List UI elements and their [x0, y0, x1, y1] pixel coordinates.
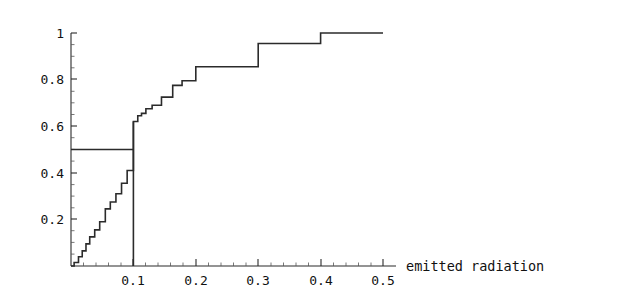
x-tick-label-0-5: 0.5 — [371, 273, 394, 288]
x-tick-label-0-2: 0.2 — [184, 273, 207, 288]
y-tick-label-0-2: 0.2 — [41, 212, 64, 227]
chart-figure: 1 0.8 0.6 0.4 0.2 0.1 0.2 0.3 0.4 0.5 em… — [0, 0, 620, 296]
y-tick-label-1: 1 — [56, 26, 64, 41]
x-axis-title: emitted radiation — [406, 258, 544, 274]
x-tick-label-0-4: 0.4 — [309, 273, 333, 288]
y-tick-label-0-8: 0.8 — [41, 72, 64, 87]
y-tick-label-0-4: 0.4 — [41, 166, 65, 181]
cdf-plot: 1 0.8 0.6 0.4 0.2 0.1 0.2 0.3 0.4 0.5 em… — [0, 0, 620, 296]
y-major-ticks — [71, 33, 77, 219]
x-tick-label-0-1: 0.1 — [121, 273, 144, 288]
y-tick-label-0-6: 0.6 — [41, 119, 64, 134]
x-tick-label-0-3: 0.3 — [246, 273, 269, 288]
